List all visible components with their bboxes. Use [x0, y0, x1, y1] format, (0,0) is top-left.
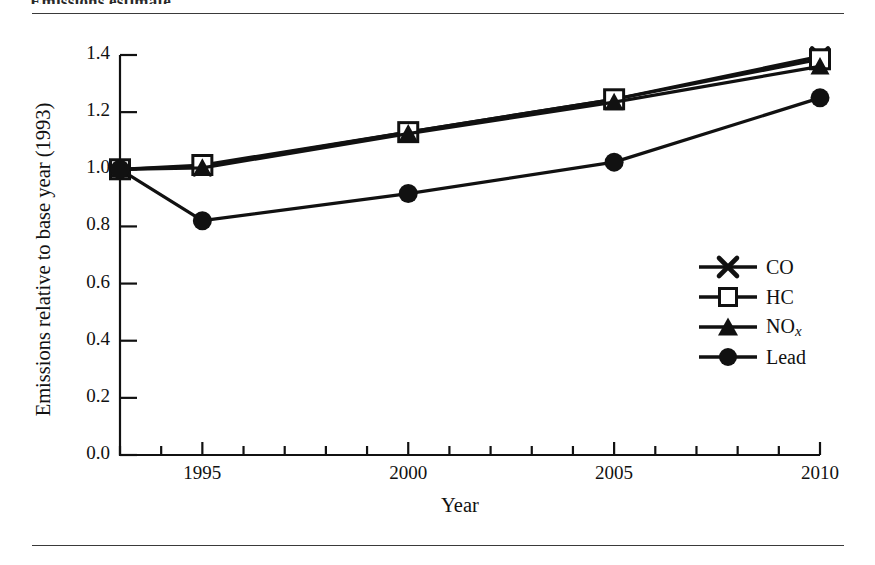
y-tick-1.4: 1.4: [50, 42, 110, 64]
chart-legend: CO HC NOx Lead: [697, 252, 806, 372]
y-tick-0.8: 0.8: [50, 213, 110, 235]
x-tick-2005: 2005: [569, 462, 659, 484]
legend-item-hc[interactable]: HC: [697, 282, 806, 312]
data-series-group: [111, 48, 830, 230]
legend-label-hc: HC: [766, 287, 794, 307]
x-tick-2000: 2000: [363, 462, 453, 484]
chart-area: Emissions relative to base year (1993) Y…: [0, 0, 875, 540]
y-tick-0.0: 0.0: [50, 442, 110, 464]
x-axis-label: Year: [120, 494, 800, 517]
legend-item-nox[interactable]: NOx: [697, 312, 806, 342]
series-nox: [111, 57, 830, 177]
x-tick-1995: 1995: [157, 462, 247, 484]
legend-label-nox: NOx: [766, 316, 802, 339]
series-hc: [111, 50, 830, 179]
legend-label-co: CO: [766, 257, 794, 277]
x-tick-2010: 2010: [775, 462, 865, 484]
filled-triangle-icon: [697, 314, 759, 340]
bottom-horizontal-rule: [32, 545, 844, 546]
y-tick-0.6: 0.6: [50, 271, 110, 293]
y-tick-1.0: 1.0: [50, 156, 110, 178]
filled-circle-icon: [697, 344, 759, 370]
legend-item-lead[interactable]: Lead: [697, 342, 806, 372]
x-cross-icon: [697, 254, 759, 280]
legend-item-co[interactable]: CO: [697, 252, 806, 282]
series-lead: [111, 88, 830, 230]
open-square-icon: [697, 284, 759, 310]
legend-label-lead: Lead: [766, 347, 806, 367]
y-tick-0.2: 0.2: [50, 385, 110, 407]
y-tick-1.2: 1.2: [50, 99, 110, 121]
y-tick-0.4: 0.4: [50, 328, 110, 350]
series-co: [112, 48, 828, 177]
figure-page: Emissions estimate Emissions relative to…: [0, 0, 875, 565]
